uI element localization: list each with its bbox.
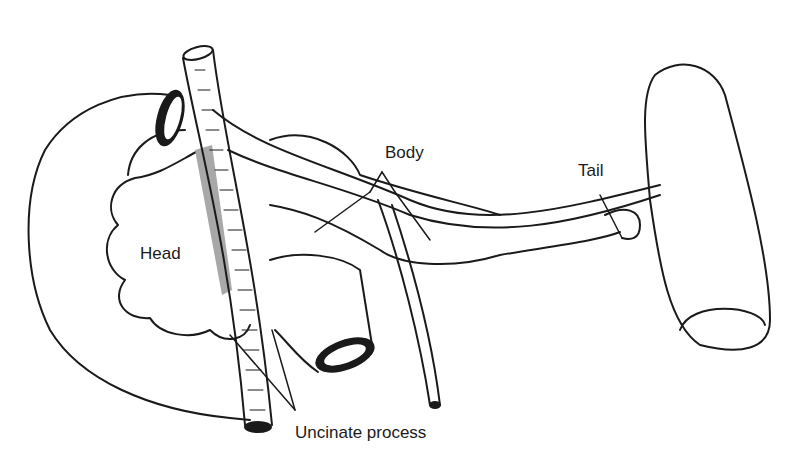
label-head: Head: [140, 244, 181, 264]
mesenteric-artery: [378, 200, 430, 405]
lower-duodenum: [275, 330, 318, 372]
pancreas-diagram: [0, 0, 792, 463]
leader-tail: [600, 195, 622, 238]
uncinate-region: [270, 255, 372, 345]
leader-uncinate-2: [272, 330, 295, 410]
label-body: Body: [385, 143, 424, 163]
leader-body-1: [315, 192, 370, 232]
label-tail: Tail: [578, 161, 604, 181]
label-uncinate-process: Uncinate process: [295, 423, 426, 443]
spleen: [645, 65, 770, 350]
